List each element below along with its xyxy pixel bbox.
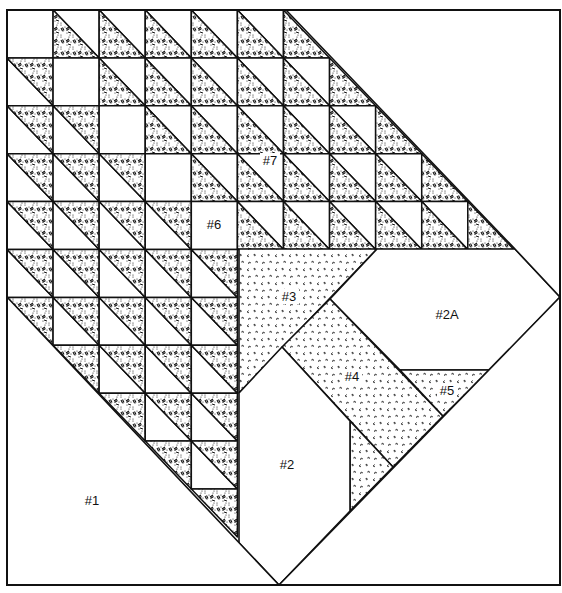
piece-2-label: #2 (280, 457, 294, 472)
blank-square (53, 58, 99, 106)
blank-square (99, 106, 145, 154)
blank-square (145, 154, 191, 202)
piece-3-label: #3 (282, 289, 296, 304)
quilt-diagram: #1#2#2A#3#4#5#6#7 (0, 0, 562, 593)
piece-4-label: #4 (345, 369, 359, 384)
piece-6-label: #6 (207, 217, 221, 232)
blank-square (7, 10, 53, 58)
piece-5-label: #5 (440, 383, 454, 398)
piece-1-label: #1 (85, 493, 99, 508)
piece-7-label: #7 (263, 153, 277, 168)
piece-2a-label: #2A (435, 307, 458, 322)
